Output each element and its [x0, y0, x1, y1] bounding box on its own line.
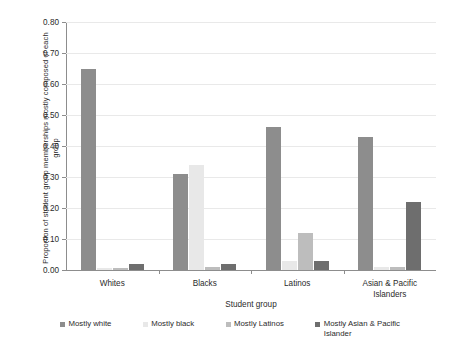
legend-swatch-icon [143, 322, 148, 327]
bar[interactable] [221, 264, 236, 270]
y-tick-label: 0.60 [43, 80, 59, 89]
y-tick-label: 0.50 [43, 111, 59, 120]
bar-group [159, 22, 252, 270]
bar[interactable] [266, 127, 281, 270]
x-tick-mark [159, 270, 160, 274]
chart-legend: Mostly whiteMostly blackMostly LatinosMo… [60, 319, 400, 339]
bar[interactable] [358, 137, 373, 270]
bar[interactable] [390, 267, 405, 270]
bar[interactable] [374, 267, 389, 270]
x-tick-label: Asian & Pacific Islanders [345, 279, 435, 300]
bar[interactable] [113, 268, 128, 270]
bar[interactable] [282, 261, 297, 270]
x-tick-label: Whites [67, 279, 157, 290]
legend-swatch-icon [315, 322, 320, 327]
bar-group [344, 22, 437, 270]
legend-item[interactable]: Mostly white [60, 319, 111, 329]
y-tick-label: 0.70 [43, 49, 59, 58]
bar[interactable] [129, 264, 144, 270]
bar-group [251, 22, 344, 270]
legend-label: Mostly Asian & Pacific Islander [324, 319, 400, 339]
bar[interactable] [81, 69, 96, 271]
y-tick-label: 0.40 [43, 142, 59, 151]
legend-label: Mostly white [69, 319, 112, 329]
legend-item[interactable]: Mostly black [143, 319, 194, 329]
plot-area: 0.000.100.200.300.400.500.600.700.80 Whi… [66, 22, 436, 270]
bar[interactable] [189, 165, 204, 270]
x-tick-label: Latinos [252, 279, 342, 290]
bar[interactable] [406, 202, 421, 270]
x-axis-title: Student group [66, 300, 436, 309]
bar-chart: Proportion of student group memberships … [0, 0, 450, 345]
bar[interactable] [205, 267, 220, 270]
bar-group [66, 22, 159, 270]
x-tick-label: Blacks [160, 279, 250, 290]
legend-item[interactable]: Mostly Asian & Pacific Islander [315, 319, 400, 339]
y-tick-mark [62, 270, 66, 271]
y-tick-label: 0.80 [43, 18, 59, 27]
y-tick-label: 0.00 [43, 266, 59, 275]
bar[interactable] [97, 268, 112, 270]
bar[interactable] [314, 261, 329, 270]
bar[interactable] [173, 174, 188, 270]
x-tick-mark [344, 270, 345, 274]
y-tick-label: 0.10 [43, 235, 59, 244]
legend-label: Mostly black [151, 319, 194, 329]
legend-item[interactable]: Mostly Latinos [226, 319, 284, 329]
y-tick-label: 0.30 [43, 173, 59, 182]
x-tick-mark [251, 270, 252, 274]
legend-swatch-icon [60, 322, 65, 327]
legend-swatch-icon [226, 322, 231, 327]
plot-frame: 0.000.100.200.300.400.500.600.700.80 Whi… [66, 22, 436, 270]
bar[interactable] [298, 233, 313, 270]
legend-label: Mostly Latinos [234, 319, 284, 329]
y-tick-label: 0.20 [43, 204, 59, 213]
